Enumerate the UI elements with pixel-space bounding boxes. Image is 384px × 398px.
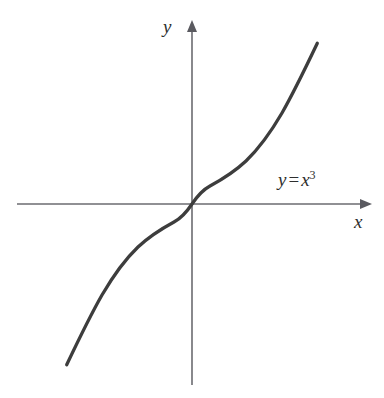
equation-x-symbol: x — [301, 169, 309, 190]
x-axis-label: x — [354, 212, 362, 231]
cubic-function-graph: y x y=x3 — [0, 0, 384, 398]
x-axis-arrowhead — [360, 199, 372, 209]
y-axis-label: y — [163, 17, 171, 36]
y-axis-arrowhead — [187, 20, 197, 32]
plot-canvas — [0, 0, 384, 398]
equation-equals-sign: = — [286, 169, 301, 190]
curve-equation-label: y=x3 — [278, 170, 316, 189]
equation-exponent: 3 — [310, 168, 316, 182]
